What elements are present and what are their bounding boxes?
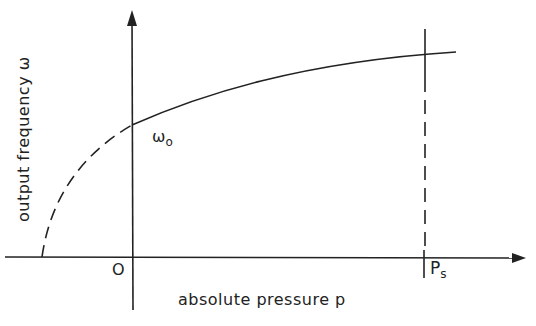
curve-dashed — [42, 125, 132, 257]
omega0-sub: o — [165, 135, 172, 149]
y-axis-arrowhead — [127, 10, 137, 26]
omega0-main: ω — [152, 127, 165, 146]
y-axis — [132, 16, 133, 310]
curve-solid — [132, 52, 456, 125]
diagram-graphics — [0, 0, 536, 326]
ps-label: Ps — [430, 258, 447, 281]
origin-label: O — [112, 260, 125, 279]
frequency-pressure-diagram: output frequency ω absolute pressure p O… — [0, 0, 536, 326]
x-axis-label: absolute pressure p — [178, 290, 346, 309]
y-axis-label: output frequency ω — [14, 56, 33, 222]
ps-sub: s — [440, 267, 446, 281]
omega0-label: ωo — [152, 127, 173, 149]
ps-main: P — [430, 258, 440, 278]
x-axis-arrowhead — [512, 253, 526, 263]
